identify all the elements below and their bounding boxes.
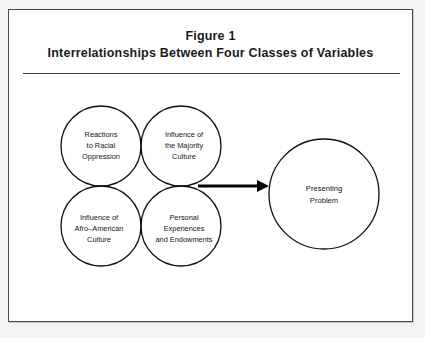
venn-label-top-left-line-3: Oppression [82, 152, 120, 161]
outcome-label-line-1: Presenting [306, 184, 342, 193]
venn-label-top-left-line-1: Reactions [85, 130, 118, 139]
venn-label-bottom-left-line-1: Influence of [80, 213, 119, 222]
figure-page: Figure 1 Interrelationships Between Four… [0, 0, 425, 338]
venn-label-bottom-left-line-3: Culture [87, 235, 111, 244]
venn-label-bottom-right-line-2: Experiences [164, 224, 205, 233]
outcome-label-line-2: Problem [310, 196, 338, 205]
venn-label-bottom-left-line-2: Afro–American [75, 224, 124, 233]
venn-label-top-right-line-2: the Majority [165, 141, 204, 150]
venn-to-outcome-arrow [198, 180, 269, 192]
arrow-head-icon [257, 180, 269, 192]
venn-label-bottom-right-line-1: Personal [169, 213, 199, 222]
venn-label-top-right-line-3: Culture [172, 152, 196, 161]
venn-label-top-right: Influence of the Majority Culture [165, 130, 204, 161]
figure-frame: Figure 1 Interrelationships Between Four… [8, 9, 413, 322]
outcome-circle-presenting-problem [269, 139, 379, 249]
diagram-canvas: Reactions to Racial Oppression Influence… [9, 10, 414, 323]
outcome-label-presenting-problem: Presenting Problem [306, 184, 342, 205]
venn-label-top-left-line-2: to Racial [87, 141, 116, 150]
venn-label-bottom-right-line-3: and Endowments [155, 235, 212, 244]
venn-label-top-left: Reactions to Racial Oppression [82, 130, 120, 161]
venn-diagram-svg: Reactions to Racial Oppression Influence… [9, 10, 414, 323]
venn-label-bottom-right: Personal Experiences and Endowments [155, 213, 212, 244]
venn-label-bottom-left: Influence of Afro–American Culture [75, 213, 124, 244]
venn-label-top-right-line-1: Influence of [165, 130, 204, 139]
